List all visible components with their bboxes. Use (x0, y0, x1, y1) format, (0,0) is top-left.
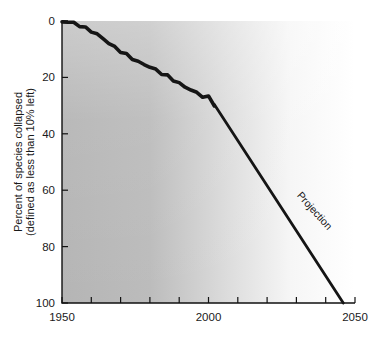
x-tick-label: 2000 (196, 311, 222, 323)
species-collapse-chart: 020406080100195020002050ProjectionPercen… (0, 0, 380, 343)
y-tick-label: 100 (36, 297, 55, 309)
y-tick-label: 60 (42, 184, 55, 196)
plot-background-overlay (62, 21, 355, 303)
y-tick-label: 80 (42, 241, 55, 253)
y-axis-title-line: (defined as less than 10% left) (24, 88, 36, 236)
y-tick-label: 40 (42, 128, 55, 140)
y-axis-title: Percent of species collapsed(defined as … (12, 88, 36, 236)
y-axis-title-line: Percent of species collapsed (12, 92, 24, 232)
x-tick-label: 2050 (342, 311, 368, 323)
y-tick-label: 0 (49, 15, 55, 27)
x-tick-label: 1950 (49, 311, 75, 323)
chart-figure: 020406080100195020002050ProjectionPercen… (0, 0, 380, 343)
y-tick-label: 20 (42, 71, 55, 83)
